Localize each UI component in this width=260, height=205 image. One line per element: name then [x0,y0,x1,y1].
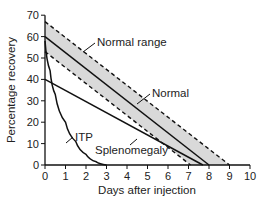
x-tick-label: 2 [83,170,89,182]
y-axis-title: Percentage recovery [5,37,17,143]
x-tick-label: 9 [226,170,232,182]
x-tick-label: 0 [42,170,48,182]
x-tick-label: 6 [165,170,171,182]
itp-leader [66,137,73,143]
normal-range-leader [83,43,95,52]
splenomegaly-label: Splenomegaly [95,144,168,156]
normal-label: Normal [152,87,189,99]
x-tick-label: 3 [103,170,109,182]
y-tick-label: 0 [33,159,39,171]
y-tick-label: 30 [27,95,39,107]
x-tick-label: 7 [185,170,191,182]
x-tick-label: 8 [206,170,212,182]
y-tick-label: 10 [27,138,39,150]
y-tick-label: 60 [27,31,39,43]
x-axis-title: Days after injection [98,184,196,196]
normal-range-label: Normal range [97,36,167,48]
itp-label: ITP [75,131,93,143]
x-tick-label: 4 [124,170,130,182]
x-tick-label: 5 [144,170,150,182]
x-tick-label: 1 [62,170,68,182]
y-tick-label: 20 [27,116,39,128]
y-tick-label: 50 [27,52,39,64]
y-tick-label: 70 [27,9,39,21]
x-tick-label: 10 [244,170,256,182]
y-tick-label: 40 [27,73,39,85]
chart: 012345678910010203040506070 Normal range… [0,0,260,205]
